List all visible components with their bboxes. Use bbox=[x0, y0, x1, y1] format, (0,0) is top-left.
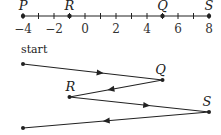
path-point-dot bbox=[161, 78, 165, 82]
path-point-dot bbox=[68, 95, 72, 99]
point-s-dot bbox=[207, 14, 211, 18]
path-point-dot bbox=[21, 62, 25, 66]
path-point-dot bbox=[21, 126, 25, 130]
path-segment bbox=[70, 80, 163, 97]
tick-label: −4 bbox=[14, 22, 32, 36]
tick-label: 2 bbox=[112, 22, 120, 36]
point-q-label: Q bbox=[157, 0, 168, 13]
point-p-dot bbox=[21, 14, 25, 18]
point-s-label: S bbox=[205, 0, 214, 13]
point-p-label: P bbox=[18, 0, 28, 13]
zigzag-path: startQRS bbox=[21, 43, 212, 130]
tick-label: 0 bbox=[81, 22, 89, 36]
number-line: −4−202468PRQS bbox=[14, 0, 213, 36]
tick-label: 8 bbox=[205, 22, 213, 36]
point-q-dot bbox=[160, 14, 164, 18]
tick-label: −2 bbox=[45, 22, 63, 36]
direction-arrow bbox=[96, 69, 104, 76]
path-point-r-label: R bbox=[65, 79, 76, 94]
tick-label: 4 bbox=[143, 22, 151, 36]
point-r-label: R bbox=[64, 0, 75, 13]
path-segment bbox=[23, 64, 163, 80]
start-label: start bbox=[21, 43, 48, 56]
path-point-q-label: Q bbox=[155, 62, 166, 77]
direction-arrow bbox=[102, 118, 109, 125]
path-segment bbox=[70, 97, 210, 112]
number-line-diagram: −4−202468PRQS startQRS bbox=[0, 0, 221, 135]
path-point-s-label: S bbox=[203, 94, 212, 109]
tick-label: 6 bbox=[174, 22, 182, 36]
path-segment bbox=[23, 112, 209, 128]
point-r-dot bbox=[67, 14, 71, 18]
path-point-dot bbox=[207, 110, 211, 114]
direction-arrow bbox=[143, 102, 151, 109]
